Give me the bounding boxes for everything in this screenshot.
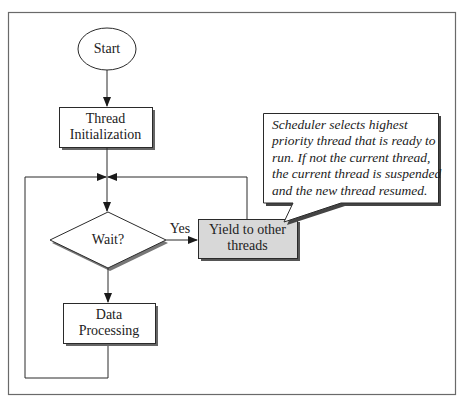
yes-edge-label: Yes (166, 220, 194, 237)
flowchart-diagram: Start Thread Initialization Wait? Yes Yi… (0, 0, 465, 408)
thread-init-label-line2: Initialization (59, 126, 152, 143)
wait-node-label: Wait? (78, 231, 138, 248)
data-processing-label-line2: Processing (63, 322, 155, 339)
yield-label-line2: threads (198, 237, 297, 254)
thread-init-label-line1: Thread (59, 110, 152, 127)
edge-loop-left (25, 177, 108, 378)
start-node-label: Start (78, 40, 136, 57)
yield-label-line1: Yield to other (198, 221, 297, 238)
edge-loop-right (108, 177, 247, 219)
callout-line-3: run. If not the current thread, (272, 150, 430, 167)
callout-line-4: the current thread is suspended (272, 166, 441, 183)
flowchart-canvas (0, 0, 465, 408)
callout-line-2: priority thread that is ready to (272, 133, 436, 150)
data-processing-label-line1: Data (63, 306, 155, 323)
callout-line-5: and the new thread resumed. (272, 183, 427, 200)
callout-line-1: Scheduler selects highest (272, 117, 408, 134)
